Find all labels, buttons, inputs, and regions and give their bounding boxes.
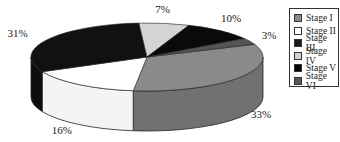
legend-item-stage-1: Stage I <box>294 12 333 24</box>
pie-label-stage-4: 7% <box>155 3 170 15</box>
pie-label-stage-5: 10% <box>221 12 241 24</box>
legend-label: Stage I <box>306 13 333 23</box>
legend-swatch <box>294 27 302 35</box>
pie-label-stage-6: 3% <box>262 29 277 41</box>
legend-swatch <box>294 52 302 60</box>
pie-label-stage-3: 31% <box>7 27 27 39</box>
legend-swatch <box>294 39 302 47</box>
pie-label-stage-2: 16% <box>52 124 72 136</box>
pie-chart <box>0 0 285 142</box>
legend-swatch <box>294 64 302 72</box>
legend: Stage I Stage II Stage III Stage IV Stag… <box>289 8 339 87</box>
legend-item-stage-6: Stage VI <box>294 75 338 87</box>
legend-swatch <box>294 77 302 85</box>
legend-item-stage-4: Stage IV <box>294 50 338 62</box>
pie-label-stage-1: 33% <box>251 108 271 120</box>
legend-swatch <box>294 14 302 22</box>
legend-label: Stage VI <box>306 71 338 91</box>
